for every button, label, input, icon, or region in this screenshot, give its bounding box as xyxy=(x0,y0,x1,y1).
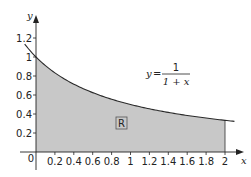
equation-equals: = xyxy=(153,68,161,79)
x-tick-label: 1 xyxy=(127,156,133,167)
x-tick-label: 1.8 xyxy=(198,156,214,167)
y-axis-ticks: 0.20.40.60.811.2 xyxy=(16,33,36,139)
equation-label: y = 1 1 + x xyxy=(145,62,190,87)
y-tick-label: 0.4 xyxy=(16,109,32,120)
x-axis-label: x xyxy=(241,155,247,166)
x-tick-label: 1.4 xyxy=(160,156,176,167)
x-tick-label: 1.6 xyxy=(179,156,195,167)
chart: 0.20.40.60.811.21.41.61.82 0.20.40.60.81… xyxy=(0,0,251,177)
y-axis-label: y xyxy=(26,10,33,21)
x-tick-label: 0.8 xyxy=(104,156,120,167)
region-r-label: R xyxy=(118,118,125,129)
y-tick-label: 0.2 xyxy=(16,128,32,139)
equation-denominator: 1 + x xyxy=(163,76,190,87)
x-axis-ticks: 0.20.40.60.811.21.41.61.82 xyxy=(47,152,228,167)
origin-label: 0 xyxy=(28,153,34,164)
x-tick-label: 1.2 xyxy=(141,156,157,167)
y-tick-label: 0.6 xyxy=(16,90,32,101)
y-tick-label: 1 xyxy=(26,52,32,63)
y-axis-arrow-icon xyxy=(33,15,39,23)
x-tick-label: 0.4 xyxy=(66,156,82,167)
equation-numerator: 1 xyxy=(173,62,179,73)
y-tick-label: 0.8 xyxy=(16,71,32,82)
x-tick-label: 2 xyxy=(222,156,228,167)
x-tick-label: 0.2 xyxy=(47,156,63,167)
equation-lhs: y xyxy=(145,68,152,79)
y-tick-label: 1.2 xyxy=(16,33,32,44)
x-tick-label: 0.6 xyxy=(85,156,101,167)
